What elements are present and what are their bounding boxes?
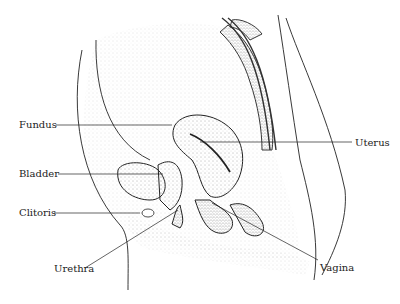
label-clitoris: Clitoris bbox=[19, 207, 56, 219]
pelvis-illustration bbox=[0, 0, 400, 304]
clitoris bbox=[142, 209, 154, 217]
anatomy-diagram: Fundus Uterus Bladder Clitoris Urethra V… bbox=[0, 0, 400, 304]
label-urethra: Urethra bbox=[54, 263, 94, 275]
label-bladder: Bladder bbox=[19, 168, 59, 180]
label-vagina: Vagina bbox=[320, 262, 354, 274]
label-fundus: Fundus bbox=[19, 119, 57, 131]
label-uterus: Uterus bbox=[355, 137, 390, 149]
